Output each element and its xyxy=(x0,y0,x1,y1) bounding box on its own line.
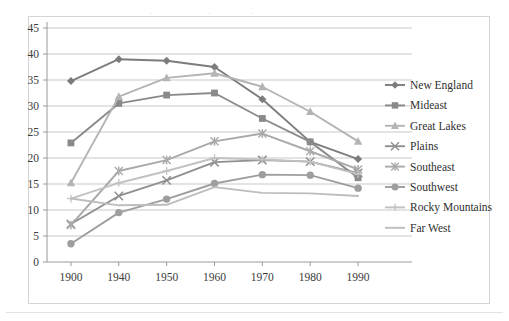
series-line xyxy=(71,158,358,199)
data-point-marker xyxy=(67,179,75,187)
y-tick-label: 0 xyxy=(33,256,39,268)
x-tick-label: 1960 xyxy=(203,271,226,283)
legend-label: New England xyxy=(410,79,473,92)
line-chart-figure: · · · 051015202530354045 190019401950196… xyxy=(0,0,509,321)
data-point-marker xyxy=(307,138,314,145)
chart-legend: New EnglandMideastGreat LakesPlainsSouth… xyxy=(385,79,493,234)
series-far-west xyxy=(71,187,358,205)
y-axis-tick-labels: 051015202530354045 xyxy=(28,22,40,268)
data-point-marker xyxy=(354,184,361,191)
data-point-marker xyxy=(392,102,398,108)
data-point-marker xyxy=(354,155,362,163)
legend-item-new-england[interactable]: New England xyxy=(385,79,473,92)
data-point-marker xyxy=(67,240,74,247)
y-tick-label: 40 xyxy=(28,48,40,60)
y-tick-label: 45 xyxy=(28,22,40,34)
data-point-marker xyxy=(259,171,266,178)
page-baseline-rule xyxy=(6,312,503,313)
data-point-marker xyxy=(115,179,123,187)
data-point-marker xyxy=(306,147,314,156)
legend-label: Great Lakes xyxy=(410,120,466,132)
data-point-marker xyxy=(211,180,218,187)
y-tick-label: 35 xyxy=(28,74,40,86)
data-point-marker xyxy=(163,195,170,202)
y-tick-label: 30 xyxy=(28,100,40,112)
legend-item-rocky-mountains[interactable]: Rocky Mountains xyxy=(385,201,493,214)
y-axis xyxy=(43,22,47,262)
x-tick-label: 1970 xyxy=(251,271,274,283)
series-line xyxy=(71,134,358,226)
x-tick-label: 1950 xyxy=(155,271,178,283)
y-tick-label: 20 xyxy=(28,152,40,164)
chart-canvas: 051015202530354045 190019401950196019701… xyxy=(0,0,509,321)
data-point-marker xyxy=(392,184,399,191)
legend-label: Southwest xyxy=(410,181,459,193)
legend-label: Mideast xyxy=(410,99,448,111)
y-tick-label: 10 xyxy=(28,204,40,216)
series-mideast xyxy=(68,90,362,182)
data-point-marker xyxy=(67,77,75,85)
data-point-marker xyxy=(67,221,75,230)
x-axis-tick-labels: 1900194019501960197019801990 xyxy=(59,271,369,283)
legend-label: Rocky Mountains xyxy=(410,201,493,214)
x-tick-label: 1940 xyxy=(107,271,130,283)
data-point-marker xyxy=(259,115,266,122)
legend-label: Plains xyxy=(410,140,439,152)
data-point-marker xyxy=(354,137,362,145)
series-line xyxy=(71,187,358,205)
y-tick-label: 5 xyxy=(33,230,39,242)
legend-item-great-lakes[interactable]: Great Lakes xyxy=(385,120,466,132)
data-point-marker xyxy=(163,167,171,175)
data-point-marker xyxy=(211,90,218,97)
legend-item-southeast[interactable]: Southeast xyxy=(385,161,456,173)
data-point-marker xyxy=(211,154,219,162)
data-point-marker xyxy=(391,81,399,89)
data-point-marker xyxy=(115,55,123,63)
data-series-group xyxy=(67,55,363,247)
legend-item-mideast[interactable]: Mideast xyxy=(385,99,448,111)
x-tick-label: 1900 xyxy=(59,271,82,283)
legend-item-far-west[interactable]: Far West xyxy=(385,222,452,234)
x-tick-label: 1990 xyxy=(347,271,370,283)
legend-label: Far West xyxy=(410,222,452,234)
series-great-lakes xyxy=(67,69,363,187)
legend-item-plains[interactable]: Plains xyxy=(385,140,439,152)
data-point-marker xyxy=(68,140,75,147)
x-axis xyxy=(47,262,412,266)
legend-label: Southeast xyxy=(410,161,456,173)
y-tick-label: 25 xyxy=(28,126,40,138)
legend-item-southwest[interactable]: Southwest xyxy=(385,181,459,193)
data-point-marker xyxy=(307,171,314,178)
data-point-marker xyxy=(115,209,122,216)
series-line xyxy=(71,160,358,224)
data-point-marker xyxy=(163,57,171,65)
data-point-marker xyxy=(163,92,170,99)
y-tick-label: 15 xyxy=(28,178,40,190)
x-tick-label: 1980 xyxy=(299,271,322,283)
grid-lines xyxy=(47,28,412,236)
